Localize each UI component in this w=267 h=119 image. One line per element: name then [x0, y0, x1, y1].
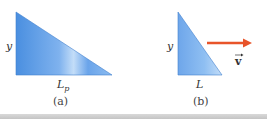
panel-a-base-subscript: p: [64, 84, 69, 93]
panel-b-caption: (b): [193, 95, 209, 108]
bottom-border: [0, 114, 267, 119]
triangle-a: [16, 12, 112, 75]
velocity-label: v: [235, 55, 241, 68]
diagram-canvas: [0, 0, 267, 119]
panel-a-caption: (a): [53, 95, 68, 108]
velocity-arrow-icon: [207, 39, 252, 48]
panel-b-side-label: y: [167, 40, 173, 53]
panel-a-base-label: Lp: [57, 78, 69, 93]
panel-b-base-label: L: [196, 78, 203, 91]
panel-a-side-label: y: [6, 40, 12, 53]
